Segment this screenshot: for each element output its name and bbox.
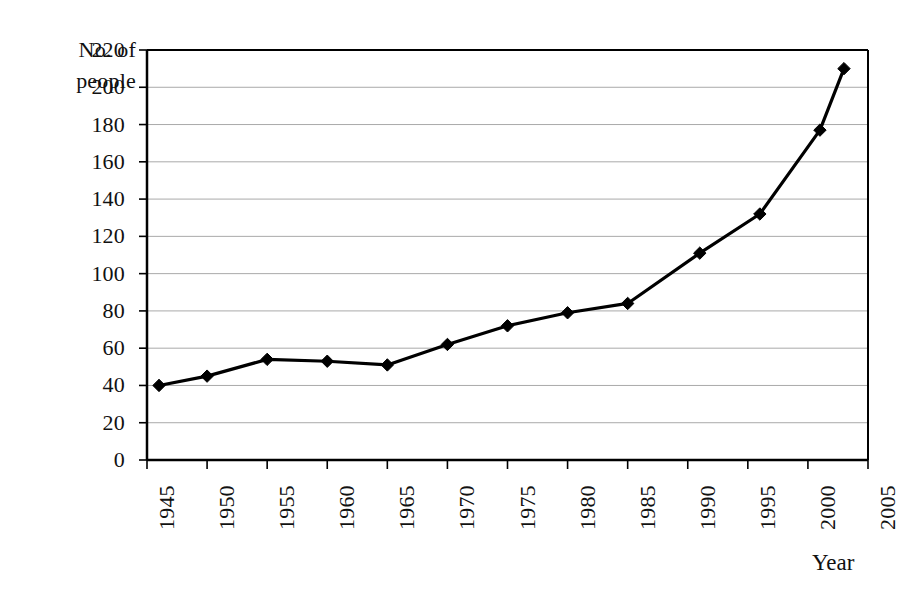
line-chart: No. of people 22020018016014012010080604… [0,0,897,607]
x-axis-ticks [147,460,868,469]
data-point-marker [321,355,333,367]
data-point-marker [838,62,850,74]
plot-frame [147,50,868,460]
data-point-marker [261,353,273,365]
plot-area [0,0,897,607]
data-point-marker [381,359,393,371]
x-axis-title: Year [812,551,854,574]
data-point-marker [153,379,165,391]
gridlines [147,87,868,422]
data-point-marker [441,338,453,350]
data-markers [153,62,850,391]
data-point-marker [561,307,573,319]
data-point-marker [201,370,213,382]
data-line [159,69,844,386]
data-point-marker [501,320,513,332]
